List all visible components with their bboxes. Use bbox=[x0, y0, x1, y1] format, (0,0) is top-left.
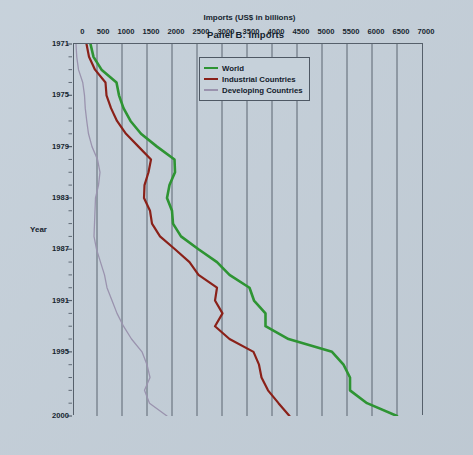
legend-label-developing-countries: Developing Countries bbox=[222, 85, 303, 94]
x-axis-title: Year bbox=[18, 224, 58, 233]
y-axis-tick-label: 5500 bbox=[339, 26, 359, 35]
y-axis-tick-label: 1000 bbox=[114, 26, 134, 35]
y-axis-tick-label: 4500 bbox=[289, 26, 309, 35]
y-axis-tick-label: 3000 bbox=[214, 26, 234, 35]
y-axis-tick-label: 6500 bbox=[389, 26, 409, 35]
chart-legend: World Industrial Countries Developing Co… bbox=[199, 57, 310, 101]
x-axis-tick-label: 1971 bbox=[49, 38, 71, 47]
y-axis-tick-label: 3500 bbox=[239, 26, 259, 35]
y-axis-tick-label: 7000 bbox=[414, 26, 434, 35]
y-axis-tick-label: 500 bbox=[89, 26, 109, 35]
y-axis-tick-label: 6000 bbox=[364, 26, 384, 35]
legend-item-industrial-countries: Industrial Countries bbox=[204, 74, 303, 84]
legend-swatch-developing-countries bbox=[204, 88, 218, 90]
x-axis-tick-label: 1979 bbox=[49, 141, 71, 150]
legend-swatch-industrial-countries bbox=[204, 77, 218, 79]
y-axis-title: Imports (US$ in billions) bbox=[189, 12, 309, 21]
y-axis-tick-label: 4000 bbox=[264, 26, 284, 35]
legend-label-world: World bbox=[222, 63, 244, 72]
legend-item-world: World bbox=[204, 63, 303, 73]
rotated-figure-wrapper: Panel B: Imports 05001000150020002500300… bbox=[27, 13, 447, 443]
legend-label-industrial-countries: Industrial Countries bbox=[222, 74, 296, 83]
x-axis-tick-label: 1991 bbox=[49, 295, 71, 304]
y-axis-tick-label: 2500 bbox=[189, 26, 209, 35]
y-axis-tick-label: 2000 bbox=[164, 26, 184, 35]
x-axis-tick-label: 1983 bbox=[49, 192, 71, 201]
page-background: Panel B: Imports 05001000150020002500300… bbox=[0, 0, 473, 455]
y-axis-tick-label: 1500 bbox=[139, 26, 159, 35]
chart-figure: Panel B: Imports 05001000150020002500300… bbox=[27, 13, 447, 443]
y-axis-tick-label: 5000 bbox=[314, 26, 334, 35]
x-axis-tick-label: 1995 bbox=[49, 346, 71, 355]
y-axis-tick-label: 0 bbox=[64, 26, 84, 35]
x-axis-tick-label: 1987 bbox=[49, 243, 71, 252]
legend-swatch-world bbox=[204, 66, 218, 68]
legend-item-developing-countries: Developing Countries bbox=[204, 85, 303, 95]
x-axis-tick-label: 1975 bbox=[49, 89, 71, 98]
x-axis-tick-label: 2000 bbox=[49, 410, 71, 419]
